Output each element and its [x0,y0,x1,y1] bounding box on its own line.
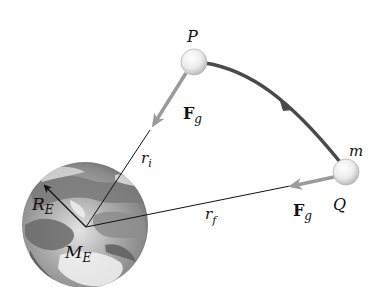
label-mass-m: m [349,142,363,160]
label-point-p: P [186,27,198,46]
earth [22,162,148,287]
label-force-q: Fg [293,201,312,223]
trajectory-path [205,63,340,162]
label-r-final: rf [205,205,218,227]
label-force-p: Fg [183,104,202,126]
label-r-initial: ri [141,149,152,170]
mass-at-q [333,159,359,185]
mass-at-p [181,49,207,75]
gravity-force-arrow-q [292,177,334,186]
gravity-work-diagram: P Fg ri m Q Fg rf RE ME [0,0,383,287]
label-point-q: Q [333,195,346,214]
gravity-force-arrow-p [154,73,186,124]
trajectory-direction-arrow-icon [279,98,293,111]
